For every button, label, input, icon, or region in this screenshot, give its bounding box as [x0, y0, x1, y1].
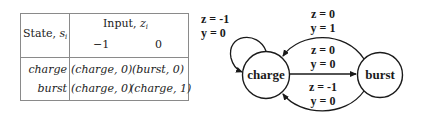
bottom-arc-z-label: z = -1 [309, 80, 337, 94]
self-loop-y-label: y = 0 [201, 26, 226, 40]
top-arc-z-label: z = 0 [311, 7, 335, 21]
straight-edge-y-label: y = 0 [311, 57, 336, 71]
straight-edge-z-label: z = 0 [311, 43, 335, 57]
node-charge: charge [243, 52, 290, 99]
svg-text:charge: charge [247, 67, 285, 82]
svg-text:burst: burst [365, 67, 395, 82]
state-machine-diagram: charge burst z = -1 y = 0 z = 0 y = 1 z … [0, 0, 421, 113]
self-loop-z-label: z = -1 [201, 12, 229, 26]
top-arc-y-label: y = 1 [311, 21, 336, 35]
bottom-arc-y-label: y = 0 [311, 94, 336, 108]
node-burst: burst [358, 53, 403, 98]
